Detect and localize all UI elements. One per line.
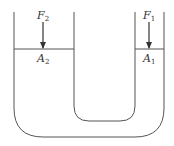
left-force-label: F2 bbox=[36, 9, 49, 23]
outer-tube-wall bbox=[14, 12, 164, 137]
right-area-label: A1 bbox=[142, 52, 155, 66]
left-area-label: A2 bbox=[36, 52, 49, 66]
right-arrowhead-icon bbox=[146, 42, 152, 49]
hydraulic-press-diagram: F2 A2 F1 A1 bbox=[0, 0, 174, 146]
inner-tube-wall bbox=[74, 12, 135, 121]
right-force-label: F1 bbox=[142, 9, 155, 23]
left-arrowhead-icon bbox=[40, 42, 46, 49]
